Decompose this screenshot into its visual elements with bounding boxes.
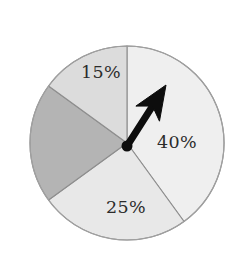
pie-slice-label: 40%: [157, 132, 197, 152]
spinner-figure: 40%25%15%: [0, 0, 241, 260]
pie-chart-spinner: 40%25%15%: [0, 0, 241, 260]
pie-slice-label: 15%: [81, 62, 121, 82]
pie-slice-label: 25%: [106, 197, 146, 217]
spinner-arrow-pivot: [122, 141, 133, 152]
